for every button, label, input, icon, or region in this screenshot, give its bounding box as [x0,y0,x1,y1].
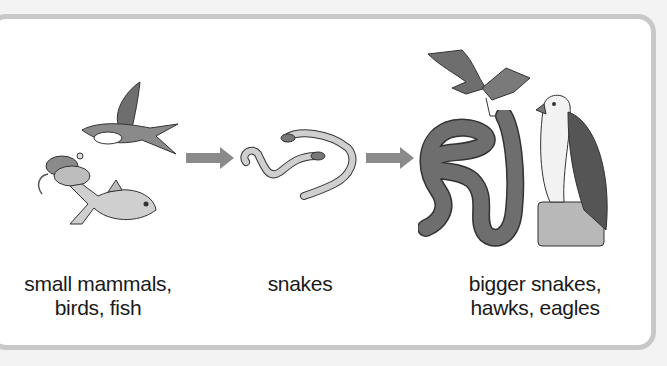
stage-label-predators: bigger snakes, hawks, eagles [440,272,630,320]
stage-label-line: bigger snakes, [440,272,630,296]
small-snake-icon [238,126,358,202]
swallow-icon [80,80,180,160]
stage-label-line: hawks, eagles [440,296,630,320]
stage-label-line: birds, fish [18,296,178,320]
stage-label-line: snakes [240,272,360,296]
stage-label-line: small mammals, [18,272,178,296]
fish-icon [68,178,160,230]
arrow-right-icon [186,146,236,170]
arrow-right-icon [366,146,416,170]
stage-label-prey: small mammals, birds, fish [18,272,178,320]
stage-label-snakes: snakes [240,272,360,296]
eagle-icon [534,90,614,248]
large-snake-icon [418,110,538,250]
